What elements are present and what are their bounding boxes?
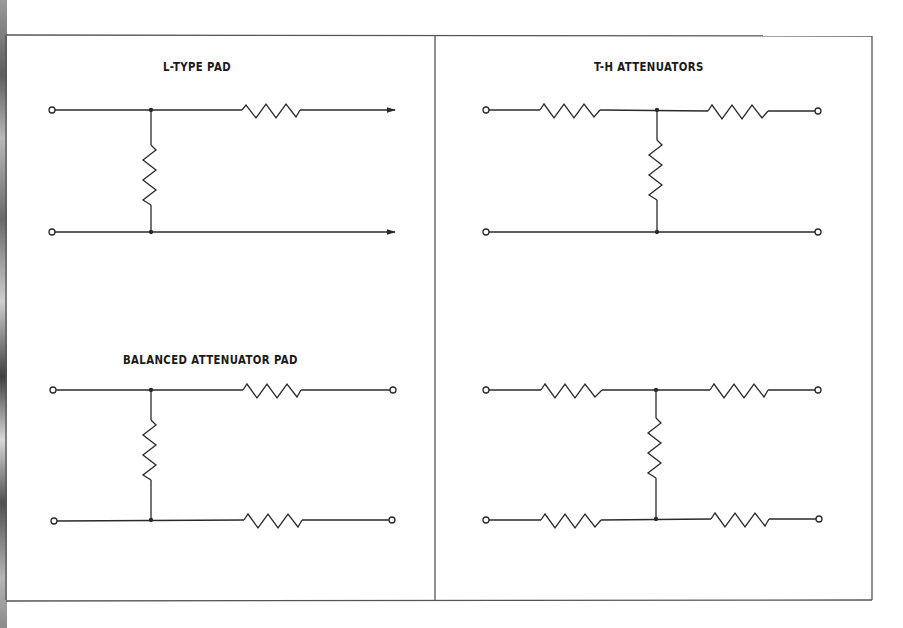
terminal-icon (815, 229, 821, 235)
terminal-icon (51, 518, 57, 524)
series-resistor-icon (243, 384, 301, 398)
shunt-resistor-icon (143, 145, 156, 205)
terminal-icon (49, 229, 55, 235)
terminal-icon (389, 517, 395, 523)
series-resistor-icon (244, 514, 302, 528)
terminal-icon (483, 387, 489, 393)
shunt-resistor-icon (143, 420, 156, 480)
terminal-icon (50, 387, 56, 393)
balanced-attenuator-pad-circuit (50, 384, 396, 528)
series-resistor-icon (710, 384, 768, 398)
attenuator-circuits-diagram (0, 0, 903, 628)
t-attenuator-circuit (483, 104, 821, 235)
series-resistor-icon (540, 104, 600, 118)
shunt-resistor-icon (648, 418, 661, 478)
terminal-icon (390, 387, 396, 393)
terminal-icon (483, 107, 489, 113)
series-resistor-icon (541, 384, 602, 398)
shunt-resistor-icon (649, 140, 662, 200)
terminal-icon (483, 517, 489, 523)
series-resistor-icon (242, 104, 300, 118)
terminal-icon (483, 229, 489, 235)
h-attenuator-circuit (483, 384, 822, 528)
terminal-icon (815, 108, 821, 114)
terminal-icon (49, 107, 55, 113)
l-type-pad-circuit (49, 104, 395, 235)
series-resistor-icon (711, 513, 769, 527)
series-resistor-icon (708, 105, 768, 119)
terminal-icon (815, 387, 821, 393)
terminal-icon (816, 516, 822, 522)
series-resistor-icon (541, 514, 601, 528)
